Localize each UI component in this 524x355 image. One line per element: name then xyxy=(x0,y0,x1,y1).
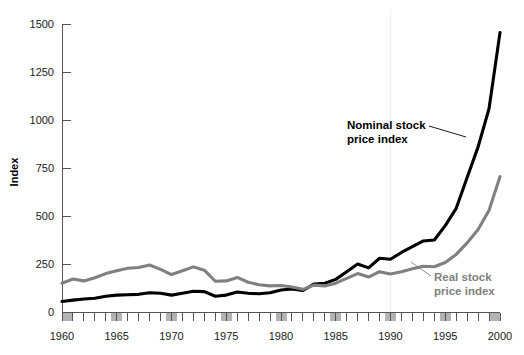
chart-canvas: 0250500750100012501500 19601965197019751… xyxy=(0,0,524,355)
y-tick-label-250: 250 xyxy=(36,258,54,270)
x-tick-label-1980: 1980 xyxy=(269,330,293,342)
y-tick-label-500: 500 xyxy=(36,210,54,222)
x-tick-label-1990: 1990 xyxy=(378,330,402,342)
x-tick-label-1995: 1995 xyxy=(433,330,457,342)
y-tick-label-1250: 1250 xyxy=(30,66,54,78)
axis-band-2000 xyxy=(489,313,500,321)
x-tick-labels: 196019651970197519801985199019952000 xyxy=(50,330,512,342)
real-annotation-line-1: Real stock xyxy=(434,271,492,283)
x-axis xyxy=(62,312,500,321)
x-tick-label-1985: 1985 xyxy=(324,330,348,342)
y-tick-label-750: 750 xyxy=(36,162,54,174)
nominal-annotation-line-2: price index xyxy=(347,133,408,145)
y-axis-title: Index xyxy=(8,157,20,187)
x-tick-label-1960: 1960 xyxy=(50,330,74,342)
real-annotation-line-2: price index xyxy=(434,285,495,297)
y-tick-label-1500: 1500 xyxy=(30,18,54,30)
stock-price-index-chart: 0250500750100012501500 19601965197019751… xyxy=(0,0,524,355)
y-tick-label-1000: 1000 xyxy=(30,114,54,126)
x-tick-label-1965: 1965 xyxy=(105,330,129,342)
axis-band-1960 xyxy=(62,313,73,321)
x-tick-label-1970: 1970 xyxy=(159,330,183,342)
y-tick-label-0: 0 xyxy=(48,306,54,318)
x-tick-label-1975: 1975 xyxy=(214,330,238,342)
x-tick-label-2000: 2000 xyxy=(488,330,512,342)
nominal-annotation-line-1: Nominal stock xyxy=(347,119,426,131)
chart-background xyxy=(0,0,524,355)
